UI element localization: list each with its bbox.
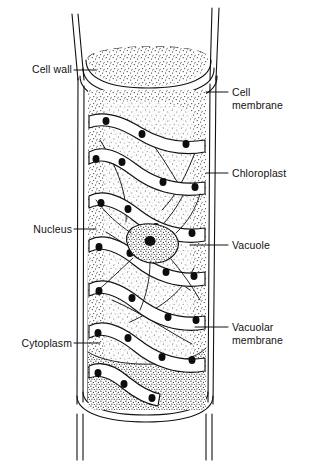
pyrenoid: [119, 158, 126, 166]
filament-bottom-right-wall: [206, 414, 212, 460]
pyrenoid: [149, 394, 156, 402]
pyrenoid: [103, 117, 110, 125]
pyrenoid: [192, 183, 199, 191]
pyrenoid: [95, 369, 102, 377]
pyrenoid: [160, 178, 167, 186]
nucleolus: [145, 236, 156, 246]
pyrenoid: [125, 205, 132, 213]
pyrenoid: [193, 316, 200, 324]
pyrenoid: [159, 353, 166, 361]
pyrenoid: [125, 334, 132, 342]
pyrenoid: [189, 356, 196, 364]
spirogyra-cell-figure: Cell wall Cellmembrane Chloroplast Nucle…: [0, 0, 314, 466]
label-cytoplasm: Cytoplasm: [0, 337, 72, 350]
pyrenoid: [183, 140, 190, 148]
filament-bottom-left-wall: [77, 414, 83, 460]
label-vacuolar-membrane-line2: membrane: [232, 334, 283, 346]
pyrenoid: [165, 313, 172, 321]
label-cell-membrane: Cellmembrane: [232, 86, 314, 111]
pyrenoid: [121, 380, 128, 388]
label-nucleus: Nucleus: [0, 223, 72, 236]
pyrenoid: [139, 130, 146, 138]
label-vacuolar-membrane-line1: Vacuolar: [232, 321, 273, 333]
pyrenoid: [191, 272, 198, 280]
label-cell-wall: Cell wall: [0, 63, 72, 76]
label-cell-membrane-line2: membrane: [232, 99, 283, 111]
pyrenoid: [129, 294, 136, 302]
label-cell-membrane-line1: Cell: [232, 86, 251, 98]
pyrenoid: [163, 268, 170, 276]
cell-interior: [88, 90, 206, 410]
label-chloroplast: Chloroplast: [232, 167, 314, 180]
pyrenoid: [189, 229, 196, 237]
label-vacuole: Vacuole: [232, 239, 314, 252]
pyrenoid: [95, 329, 102, 337]
pyrenoid: [96, 243, 103, 251]
label-vacuolar-membrane: Vacuolarmembrane: [232, 321, 314, 346]
pyrenoid: [93, 155, 100, 163]
